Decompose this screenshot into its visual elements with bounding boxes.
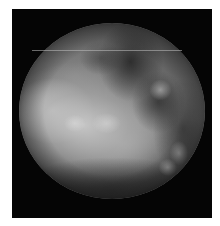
scan-line-artifact [32, 50, 182, 51]
image-frame [12, 9, 212, 218]
